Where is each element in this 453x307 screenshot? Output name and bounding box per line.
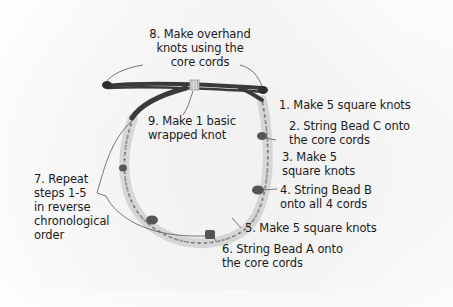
label-step-2: 2. String Bead C onto the core cords [289, 119, 410, 147]
bead-c-left [119, 165, 127, 172]
label-step-8-line-1: 8. Make overhand [138, 27, 262, 41]
overhand-knot-right [258, 86, 268, 94]
bead-b-left [146, 216, 158, 225]
label-step-7: 7. Repeat steps 1-5 in reverse chronolog… [34, 172, 109, 242]
bead-b-right [252, 186, 264, 195]
label-step-8-line-3: core cords [138, 55, 262, 69]
wrapped-knot [190, 80, 199, 90]
label-step-2-line-2: the core cords [289, 133, 410, 147]
label-step-4: 4. String Bead B onto all 4 cords [280, 183, 372, 211]
label-step-4-line-2: onto all 4 cords [280, 197, 372, 211]
label-step-8: 8. Make overhand knots using the core co… [138, 27, 262, 69]
label-step-1: 1. Make 5 square knots [279, 98, 411, 112]
label-step-6: 6. String Bead A onto the core cords [222, 242, 343, 270]
label-step-6-line-1: 6. String Bead A onto [222, 242, 343, 256]
overhand-knot-left [102, 81, 112, 89]
label-step-5: 5. Make 5 square knots [245, 221, 377, 235]
bead-c-right [257, 132, 267, 140]
core-cords [106, 84, 265, 118]
label-step-7-line-5: order [34, 228, 109, 242]
diagram-canvas: 8. Make overhand knots using the core co… [0, 0, 453, 307]
label-step-3-line-2: square knots [282, 164, 355, 178]
label-step-8-line-2: knots using the [138, 41, 262, 55]
label-step-5-line-1: 5. Make 5 square knots [245, 221, 377, 235]
label-step-6-line-2: the core cords [222, 256, 343, 270]
label-step-1-line-1: 1. Make 5 square knots [279, 98, 411, 112]
label-step-7-line-2: steps 1-5 [34, 186, 109, 200]
label-step-4-line-1: 4. String Bead B [280, 183, 372, 197]
label-step-9-line-2: wrapped knot [148, 128, 236, 142]
leader-step-9 [183, 91, 193, 115]
label-step-7-line-3: in reverse [34, 200, 109, 214]
leader-step-5 [232, 218, 241, 228]
label-step-3-line-1: 3. Make 5 [282, 150, 355, 164]
label-step-7-line-1: 7. Repeat [34, 172, 109, 186]
label-step-9-line-1: 9. Make 1 basic [148, 114, 236, 128]
label-step-9: 9. Make 1 basic wrapped knot [148, 114, 236, 142]
label-step-3: 3. Make 5 square knots [282, 150, 355, 178]
label-step-2-line-1: 2. String Bead C onto [289, 119, 410, 133]
label-step-7-line-4: chronological [34, 214, 109, 228]
bead-a [205, 230, 215, 239]
